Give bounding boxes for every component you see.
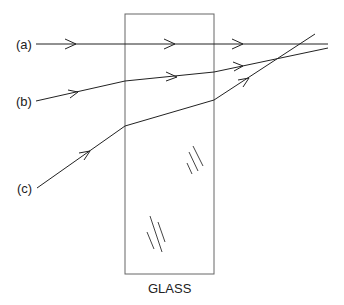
ray-b xyxy=(36,48,328,101)
arrow-icon xyxy=(68,90,78,98)
glass-block xyxy=(125,14,214,274)
ray-label-c: (c) xyxy=(17,182,32,195)
arrow-icon xyxy=(238,78,249,87)
glare-marks-lower xyxy=(147,216,165,252)
refraction-diagram xyxy=(0,0,344,305)
ray-c xyxy=(37,34,315,188)
glare-marks-upper xyxy=(187,146,203,174)
ray-label-b: (b) xyxy=(16,95,32,108)
ray-label-a: (a) xyxy=(16,38,32,51)
ray-a xyxy=(36,39,328,49)
glass-label: GLASS xyxy=(148,282,191,295)
